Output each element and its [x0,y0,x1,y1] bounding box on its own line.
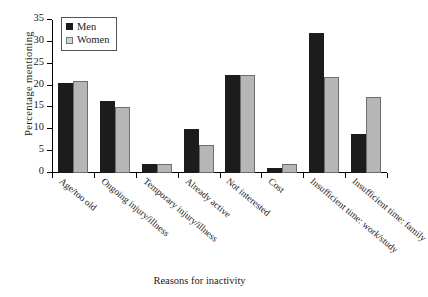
y-axis-tick: 25 [47,63,52,64]
y-axis-tick-label: 10 [22,121,44,132]
legend-item-women: Women [66,33,109,46]
x-axis-category-label: Cost [267,176,287,195]
x-axis-title: Reasons for inactivity [0,275,399,286]
bar [309,33,324,173]
y-axis-tick: 20 [47,85,52,86]
bar [73,81,88,173]
legend-label-women: Women [77,33,109,46]
x-axis-category-label: Insufficient time: work/study [309,176,400,255]
y-axis-tick-label: 30 [22,34,44,45]
bar [351,134,366,173]
bar [184,129,199,173]
y-axis-line [52,20,53,174]
y-axis-tick: 30 [47,41,52,42]
y-axis-tick-label: 5 [22,143,44,154]
bar [115,107,130,173]
y-axis-tick-label: 0 [22,165,44,176]
x-axis-category-label: Insufficient time: family [351,176,428,243]
y-axis-tick-label: 15 [22,99,44,110]
bar [240,75,255,173]
bar [267,168,282,173]
y-axis-tick: 5 [47,150,52,151]
y-axis-tick-label: 35 [22,12,44,23]
bar [100,101,115,173]
bar [58,83,73,173]
bar [157,164,172,173]
legend-swatch-men-icon [66,23,73,30]
x-axis-category-label: Age/too old [58,176,99,213]
legend-swatch-women-icon [66,37,73,44]
x-axis-category-labels: Age/too oldOngoing injury/illnessTempora… [52,176,397,264]
bar [282,164,297,173]
legend-item-men: Men [66,20,109,33]
bar [142,164,157,173]
y-axis-tick: 10 [47,128,52,129]
y-axis-tick: 15 [47,106,52,107]
bar [225,75,240,173]
x-axis-category-label: Temporary injury/illness [141,176,219,244]
legend-label-men: Men [77,20,96,33]
y-axis-tick: 35 [47,19,52,20]
legend: Men Women [61,17,117,51]
bar [366,97,381,174]
bar [324,77,339,173]
y-axis-tick-label: 25 [22,56,44,67]
bar [199,145,214,173]
y-axis-tick-label: 20 [22,78,44,89]
